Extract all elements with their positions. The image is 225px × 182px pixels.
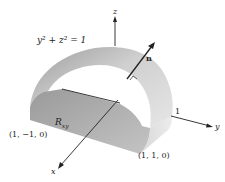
point-left-corner: (1, −1, 0) xyxy=(9,131,47,139)
y-axis-label: y xyxy=(215,123,220,131)
y-axis xyxy=(171,116,213,128)
y-tick-label: 1 xyxy=(175,108,180,116)
region-label-main: R xyxy=(55,117,62,127)
x-axis-label: x xyxy=(51,168,56,176)
figure-canvas: z y² + z² = 1 n 1 y x Rxy (1, −1, 0) (1,… xyxy=(0,0,225,182)
surface-equation: y² + z² = 1 xyxy=(37,36,86,45)
front-face xyxy=(30,89,150,154)
z-axis xyxy=(113,16,117,46)
z-axis-label: z xyxy=(113,8,117,16)
normal-label: n xyxy=(146,54,152,62)
region-label-subscript: xy xyxy=(62,122,69,129)
point-right-corner: (1, 1, 0) xyxy=(138,152,170,160)
surface-diagram xyxy=(0,0,225,182)
region-label: Rxy xyxy=(55,118,69,129)
